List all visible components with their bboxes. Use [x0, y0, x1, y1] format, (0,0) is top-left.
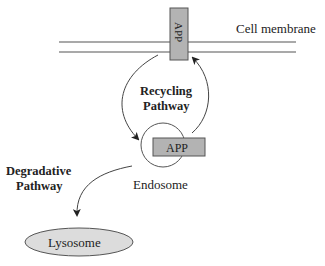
lysosome-label: Lysosome [48, 235, 101, 250]
recycling-label-line2: Pathway [143, 99, 190, 113]
recycling-return-arrow [192, 58, 209, 133]
app-membrane-label: APP [173, 22, 185, 42]
app-trafficking-diagram: Cell membrane APP Recycling Pathway APP … [0, 0, 325, 266]
app-endosome-label: APP [166, 141, 188, 155]
app-endosome-protein: APP [153, 138, 205, 156]
app-membrane-protein: APP [170, 8, 188, 60]
recycling-label-line1: Recycling [140, 84, 193, 98]
endosome-label: Endosome [133, 177, 188, 192]
degradative-label-line1: Degradative [6, 164, 72, 178]
cell-membrane-label: Cell membrane [236, 21, 316, 36]
degradative-label-line2: Pathway [16, 179, 63, 193]
degradative-arrow [77, 166, 132, 215]
